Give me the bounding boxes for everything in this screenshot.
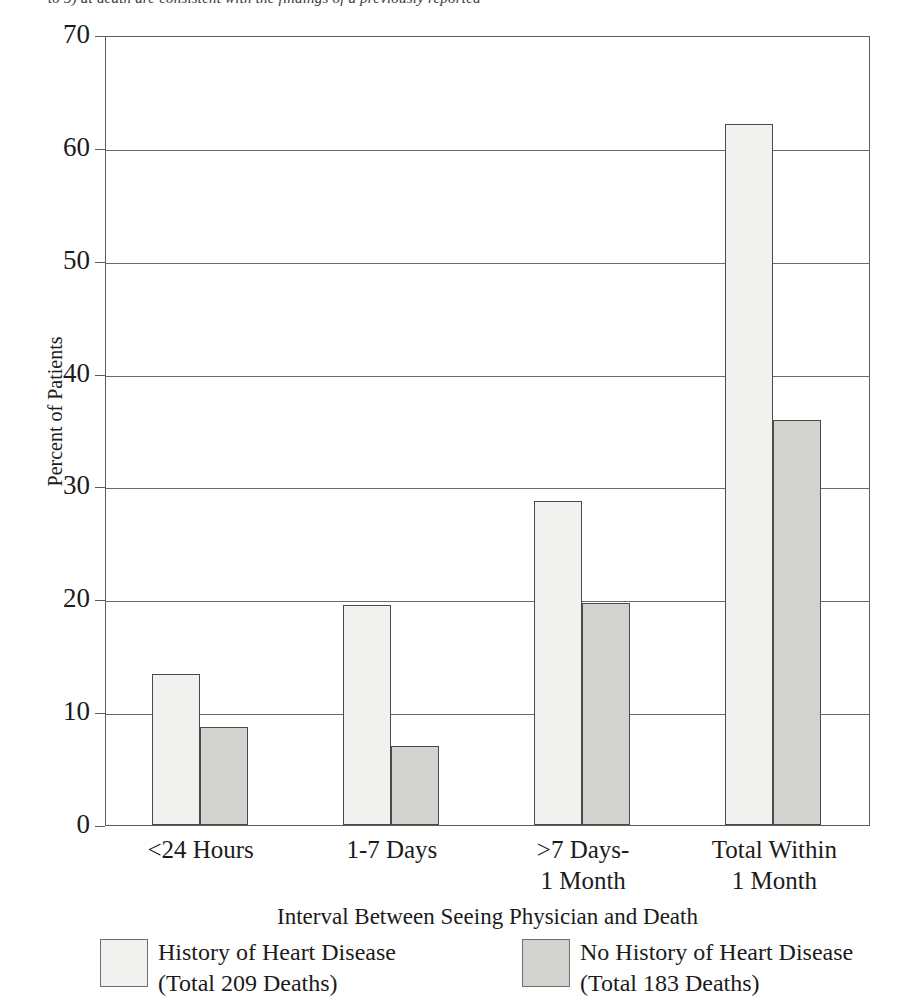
x-tick-label: >7 Days- 1 Month: [488, 834, 679, 896]
legend-label: History of Heart Disease (Total 209 Deat…: [158, 937, 396, 999]
y-tick-30: [95, 487, 105, 488]
y-tick-40: [95, 375, 105, 376]
y-tick-20: [95, 600, 105, 601]
bar-chart-figure: 010203040506070 Percent of Patients <24 …: [0, 0, 905, 1003]
legend-item: History of Heart Disease (Total 209 Deat…: [100, 937, 396, 999]
x-axis-title: Interval Between Seeing Physician and De…: [105, 904, 870, 930]
y-tick-10: [95, 713, 105, 714]
x-tick-label: Total Within 1 Month: [679, 834, 870, 896]
y-tick-60: [95, 149, 105, 150]
legend-swatch-dark: [522, 939, 570, 987]
y-tick-label-70: 70: [28, 21, 90, 48]
y-tick-70: [95, 36, 105, 37]
y-tick-label-10: 10: [28, 698, 90, 725]
legend-label: No History of Heart Disease (Total 183 D…: [580, 937, 853, 999]
x-tick-label: <24 Hours: [105, 834, 296, 865]
x-axis-tick-labels: <24 Hours1-7 Days>7 Days- 1 MonthTotal W…: [105, 834, 870, 910]
y-tick-50: [95, 262, 105, 263]
x-tick-label: 1-7 Days: [296, 834, 487, 865]
legend-item: No History of Heart Disease (Total 183 D…: [522, 937, 853, 999]
y-tick-0: [95, 826, 105, 827]
y-tick-label-60: 60: [28, 134, 90, 161]
y-tick-label-20: 20: [28, 585, 90, 612]
legend-swatch-light: [100, 939, 148, 987]
y-axis-title: Percent of Patients: [44, 262, 67, 562]
chart-legend: History of Heart Disease (Total 209 Deat…: [0, 937, 905, 1003]
y-tick-label-0: 0: [28, 811, 90, 838]
